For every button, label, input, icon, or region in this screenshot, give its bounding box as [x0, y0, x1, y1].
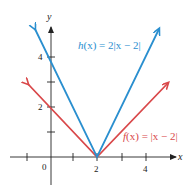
x-tick-label-2: 2: [94, 164, 99, 174]
y-axis-label: y: [46, 11, 52, 22]
f-graph-line: [28, 83, 168, 157]
y-tick-label-4: 4: [38, 52, 43, 62]
h-function-abs: |x − 2|: [114, 39, 141, 51]
h-function-args: (x) = 2: [84, 39, 114, 51]
f-function-abs: |x − 2|: [151, 130, 178, 142]
f-function-args: (x) =: [126, 130, 151, 142]
f-equation-label: f(x) = |x − 2|: [123, 131, 178, 142]
graph-canvas: x y 0 2 4 2 4: [0, 0, 187, 193]
x-axis-label: x: [177, 151, 183, 162]
h-equation-label: h(x) = 2|x − 2|: [78, 40, 141, 51]
x-tick-label-4: 4: [143, 164, 148, 174]
y-tick-label-2: 2: [38, 102, 43, 112]
x-tick-label-0: 0: [42, 162, 47, 172]
